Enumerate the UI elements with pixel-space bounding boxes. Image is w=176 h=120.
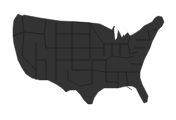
us-silhouette: [13, 14, 164, 104]
us-map: [0, 0, 176, 120]
